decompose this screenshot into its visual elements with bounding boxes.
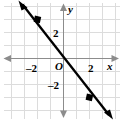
coordinate-graph-figure: –2 2 2 –2 O x y bbox=[0, 0, 123, 126]
y-tick-label-pos2: 2 bbox=[53, 28, 59, 39]
plotted-line bbox=[19, 1, 114, 120]
origin-label: O bbox=[55, 61, 63, 72]
x-tick-label-pos2: 2 bbox=[88, 63, 94, 74]
x-tick-label-neg2: –2 bbox=[26, 63, 37, 74]
x-axis-label: x bbox=[107, 61, 113, 72]
y-tick-label-neg2: –2 bbox=[48, 80, 59, 91]
y-axis-label: y bbox=[68, 4, 73, 15]
